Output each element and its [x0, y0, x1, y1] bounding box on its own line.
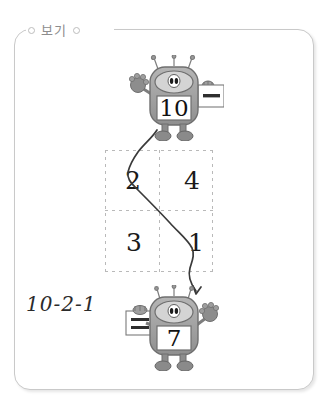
robot-bottom: 7 — [124, 285, 224, 371]
grid-line-middle-v — [159, 150, 160, 272]
handwritten-equation: 10-2-1 — [26, 292, 96, 316]
equals-sign-icon — [131, 318, 149, 321]
grid-cell-bottom-left: 3 — [126, 230, 142, 255]
legend-label: 보기 — [41, 24, 67, 37]
robot-body: 10 — [150, 67, 198, 125]
robot-number: 7 — [167, 325, 182, 351]
minus-sign-icon — [203, 94, 220, 97]
grid-cell-top-right: 4 — [184, 168, 200, 193]
robot-legs — [155, 354, 193, 371]
grid-line-left — [105, 150, 106, 272]
grid-line-right — [212, 150, 213, 272]
legend-dot-left-icon — [28, 27, 35, 34]
robot-number: 10 — [159, 95, 188, 121]
symbol-card-minus — [198, 85, 224, 107]
number-grid: 2 4 3 1 — [105, 150, 213, 272]
robot-body: 7 — [150, 297, 198, 355]
robot-top: 10 — [124, 55, 224, 141]
legend-dot-right-icon — [73, 27, 80, 34]
grid-cell-top-left: 2 — [125, 168, 141, 193]
grid-cell-bottom-right: 1 — [188, 230, 204, 255]
legend-group: 보기 — [28, 20, 80, 40]
robot-legs — [155, 124, 193, 141]
